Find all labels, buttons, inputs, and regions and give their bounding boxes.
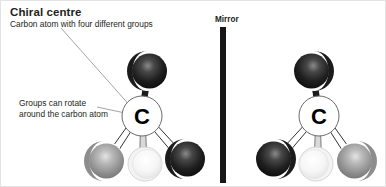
mirror-label: Mirror bbox=[215, 15, 239, 24]
atom-top-black-right bbox=[294, 51, 334, 91]
carbon-label-left: C bbox=[134, 104, 150, 129]
chiral-center-right: C bbox=[299, 96, 339, 136]
title-subtitle: Carbon atom with four different groups bbox=[10, 19, 153, 29]
leader-line-title bbox=[61, 28, 132, 108]
carbon-label-right: C bbox=[311, 104, 327, 129]
right-molecule: C bbox=[256, 51, 377, 181]
page-title: Chiral centre bbox=[10, 6, 82, 18]
atom-lower-mid-white-left bbox=[128, 147, 162, 181]
rotation-note: Groups can rotate around the carbon atom bbox=[19, 98, 111, 119]
figure-canvas: C bbox=[0, 0, 386, 187]
atom-lower-mid-white-right bbox=[299, 147, 333, 181]
mirror-plane-bar bbox=[220, 27, 226, 183]
atom-lower-right-gray-right bbox=[337, 141, 377, 181]
atom-lower-left-black-right bbox=[256, 139, 296, 179]
chiral-center-left: C bbox=[122, 96, 162, 136]
atom-top-black-left bbox=[127, 51, 167, 91]
atom-lower-right-black-left bbox=[165, 139, 205, 179]
atom-lower-left-gray-left bbox=[84, 141, 124, 181]
